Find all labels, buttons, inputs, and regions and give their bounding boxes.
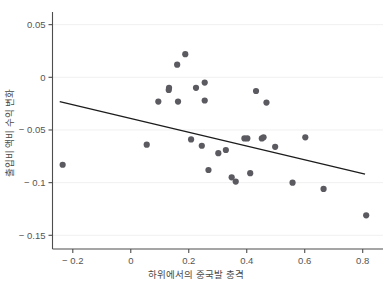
regression-line [60, 102, 365, 175]
y-tick-label: − 0.05 [19, 124, 46, 135]
scatter-plot-figure: 0.050− 0.05− 0.1− 0.15− 0.200.20.40.60.8… [0, 0, 384, 286]
x-tick-label: 0.8 [356, 255, 369, 266]
scatter-point [363, 212, 369, 218]
x-tick-label: − 0.2 [62, 255, 83, 266]
scatter-point [223, 147, 229, 153]
scatter-point [193, 85, 199, 91]
scatter-point [263, 99, 269, 105]
scatter-point [247, 170, 253, 176]
tick-labels: 0.050− 0.05− 0.1− 0.15− 0.200.20.40.60.8 [19, 19, 370, 266]
scatter-point [253, 88, 259, 94]
scatter-point [302, 134, 308, 140]
x-tick-label: 0.4 [240, 255, 253, 266]
scatter-point [260, 134, 266, 140]
scatter-point [233, 178, 239, 184]
gridlines [53, 25, 384, 236]
scatter-point [155, 98, 161, 104]
trend-line [60, 102, 365, 175]
y-axis-title: 출입비 액비 수익 변화 [4, 89, 15, 178]
x-tick-label: 0.6 [298, 255, 311, 266]
scatter-point [144, 142, 150, 148]
axes [53, 12, 384, 249]
chart-canvas: 0.050− 0.05− 0.1− 0.15− 0.200.20.40.60.8… [0, 0, 384, 286]
scatter-point [289, 180, 295, 186]
data-points [60, 51, 370, 218]
y-tick-label: 0 [40, 72, 45, 83]
scatter-point [166, 85, 172, 91]
scatter-point [320, 186, 326, 192]
tick-marks [49, 25, 363, 253]
scatter-point [202, 97, 208, 103]
scatter-point [199, 143, 205, 149]
x-tick-label: 0 [128, 255, 133, 266]
scatter-point [244, 135, 250, 141]
x-tick-label: 0.2 [182, 255, 195, 266]
y-tick-label: 0.05 [27, 19, 46, 30]
scatter-point [272, 144, 278, 150]
scatter-point [205, 167, 211, 173]
scatter-point [202, 79, 208, 85]
y-tick-label: − 0.1 [24, 177, 45, 188]
scatter-point [174, 62, 180, 68]
scatter-point [182, 51, 188, 57]
x-axis-title: 하위에서의 중국발 충격 [148, 269, 243, 280]
scatter-point [60, 162, 66, 168]
y-tick-label: − 0.15 [19, 230, 46, 241]
scatter-point [188, 136, 194, 142]
scatter-point [175, 98, 181, 104]
scatter-point [215, 150, 221, 156]
